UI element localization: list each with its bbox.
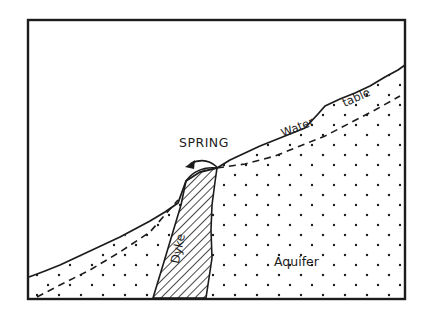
aquifer-label: Aquifer bbox=[274, 254, 319, 269]
spring-label: SPRING bbox=[179, 135, 229, 150]
cross-section-svg bbox=[0, 0, 428, 318]
spring-arrow-head bbox=[185, 160, 195, 169]
diagram-canvas: SPRING Water table Dyke Aquifer bbox=[0, 0, 428, 318]
